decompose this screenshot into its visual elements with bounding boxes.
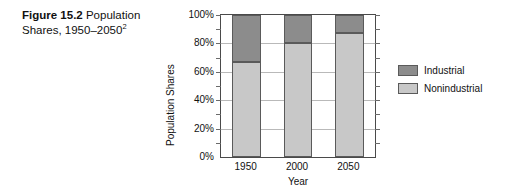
bar xyxy=(284,15,313,157)
bar-segment-nonindustrial xyxy=(284,43,313,157)
y-axis-tick-label: 80% xyxy=(194,37,214,48)
y-axis-tick-label: 60% xyxy=(194,65,214,76)
x-axis-tick-label: 2000 xyxy=(286,161,308,172)
legend-label: Industrial xyxy=(424,65,465,76)
y-axis-tick-mark xyxy=(375,29,380,30)
x-axis-tick-labels: 195020002050 xyxy=(220,161,376,175)
y-axis-tick-label: 0% xyxy=(200,151,214,162)
y-axis-tick-mark xyxy=(375,100,380,101)
legend-label: Nonindustrial xyxy=(424,83,482,94)
bar xyxy=(335,15,364,157)
bar xyxy=(232,15,261,157)
chart: Population Shares 0%20%40%60%80%100% 195… xyxy=(168,6,394,189)
y-axis-tick-mark xyxy=(375,129,380,130)
chart-legend: IndustrialNonindustrial xyxy=(398,62,508,98)
legend-item: Nonindustrial xyxy=(398,80,508,96)
legend-item: Industrial xyxy=(398,62,508,78)
y-axis-tick-mark xyxy=(375,43,380,44)
plot-area xyxy=(220,14,376,158)
y-axis-tick-mark xyxy=(375,58,380,59)
bar-segment-industrial xyxy=(232,15,261,62)
legend-swatch xyxy=(398,65,418,76)
figure-number: Figure 15.2 xyxy=(22,9,83,21)
x-axis-title: Year xyxy=(220,176,376,187)
y-axis-tick-mark xyxy=(375,15,380,16)
y-axis-tick-mark xyxy=(375,143,380,144)
bar-segment-nonindustrial xyxy=(335,33,364,157)
bar-segment-industrial xyxy=(335,15,364,33)
y-axis-tick-label: 20% xyxy=(194,122,214,133)
bar-segment-industrial xyxy=(284,15,313,43)
figure-footnote-marker: 2 xyxy=(122,22,126,31)
figure-caption: Figure 15.2 Population Shares, 1950–2050… xyxy=(22,8,172,38)
legend-swatch xyxy=(398,83,418,94)
x-axis-tick-label: 1950 xyxy=(235,161,257,172)
y-axis-tick-label: 40% xyxy=(194,94,214,105)
bar-segment-nonindustrial xyxy=(232,62,261,157)
figure-root: Figure 15.2 Population Shares, 1950–2050… xyxy=(0,0,512,195)
y-axis-tick-mark xyxy=(375,72,380,73)
bars-layer xyxy=(221,15,375,157)
y-axis-tick-mark xyxy=(375,114,380,115)
x-axis-tick-label: 2050 xyxy=(337,161,359,172)
y-axis-tick-mark xyxy=(375,86,380,87)
y-axis-tick-label: 100% xyxy=(188,9,214,20)
y-axis-tick-labels: 0%20%40%60%80%100% xyxy=(178,6,216,158)
